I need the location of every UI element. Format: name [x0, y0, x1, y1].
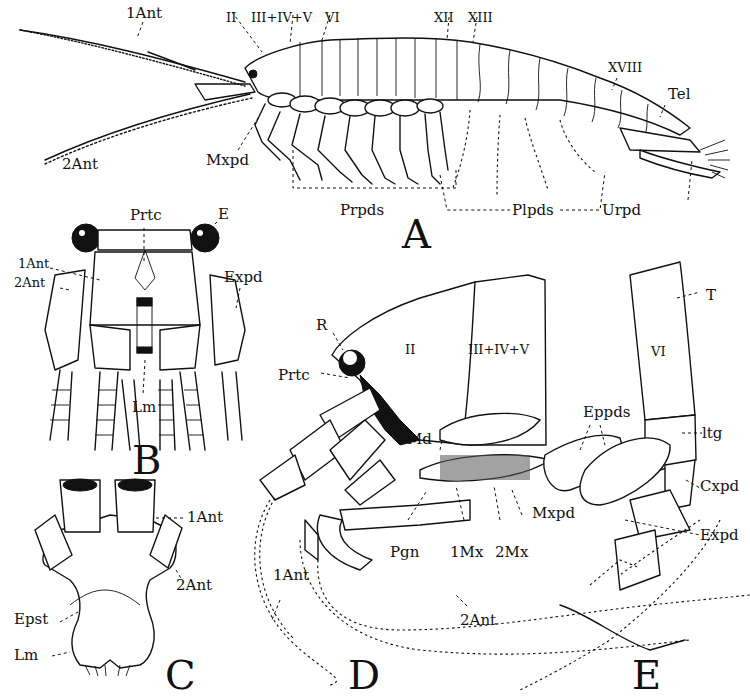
label-d-first-maxilla: 1Mx	[450, 545, 483, 560]
label-d-paragnath: Pgn	[390, 545, 419, 560]
label-d-seg-iii-iv-v: III+IV+V	[468, 342, 529, 357]
label-a-pereiopods: Prpds	[340, 203, 384, 218]
label-b-eye: E	[218, 207, 229, 222]
label-a-pleopods: Plpds	[512, 203, 554, 218]
label-e-tergum: T	[706, 288, 716, 303]
label-a-seg-vi: VI	[325, 10, 340, 25]
label-d-mandible: Md	[407, 432, 432, 447]
label-e-epipodites: Eppds	[583, 405, 630, 420]
anatomy-diagram	[0, 0, 750, 698]
panel-letter-e: E	[632, 655, 661, 695]
label-a-telson: Tel	[668, 87, 691, 102]
label-d-first-antenna: 1Ant	[273, 568, 309, 583]
label-a-seg-iii-iv-v: III+IV+V	[251, 10, 312, 25]
label-c-labrum: Lm	[14, 648, 38, 663]
label-c-second-antenna: 2Ant	[176, 578, 212, 593]
label-d-maxilliped: Mxpd	[532, 506, 575, 521]
label-e-exopodite: Expd	[700, 528, 739, 543]
label-d-second-antenna: 2Ant	[460, 613, 496, 628]
label-b-second-antenna: 2Ant	[14, 275, 45, 290]
label-a-seg-ii: II	[226, 10, 236, 25]
label-d-protocephalon: Prtc	[278, 368, 310, 383]
label-e-coxopodite: Cxpd	[700, 479, 739, 494]
label-b-labrum: Lm	[132, 400, 156, 415]
label-a-second-antenna: 2Ant	[62, 157, 98, 172]
panel-letter-c: C	[165, 655, 196, 695]
label-d-seg-ii: II	[405, 342, 415, 357]
panel-a-drawing	[20, 12, 730, 210]
label-d-rostrum: R	[316, 318, 327, 333]
label-e-seg-vi: VI	[651, 344, 666, 359]
label-a-seg-xii: XII	[434, 10, 454, 25]
label-a-maxilliped: Mxpd	[206, 153, 249, 168]
label-b-protocephalon: Prtc	[130, 208, 162, 223]
label-a-seg-xviii: XVIII	[608, 60, 642, 75]
label-c-epistome: Epst	[14, 612, 48, 627]
panel-letter-b: B	[132, 440, 161, 480]
label-b-exopodite: Expd	[224, 270, 263, 285]
label-a-first-antenna: 1Ant	[126, 6, 162, 21]
panel-c-drawing	[35, 479, 186, 676]
label-a-seg-xiii: XIII	[468, 10, 493, 25]
label-c-first-antenna: 1Ant	[187, 510, 223, 525]
label-e-laterotergite: ltg	[702, 426, 722, 441]
label-b-first-antenna: 1Ant	[18, 256, 49, 271]
label-a-uropod: Urpd	[602, 203, 641, 218]
panel-letter-d: D	[348, 655, 380, 695]
label-d-second-maxilla: 2Mx	[495, 545, 528, 560]
panel-e-drawing	[520, 262, 720, 690]
panel-letter-a: A	[402, 214, 431, 254]
